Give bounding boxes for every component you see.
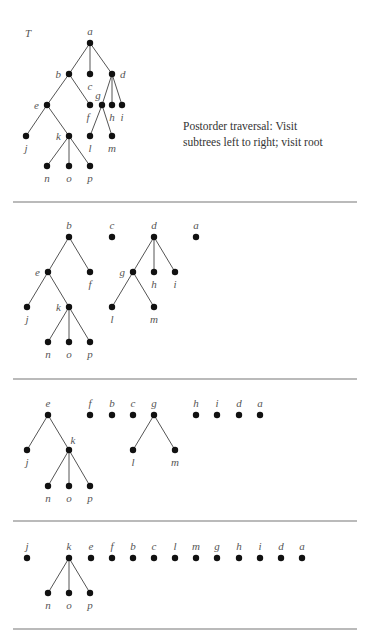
node-label-e: e bbox=[34, 99, 39, 111]
node-label-j: j bbox=[22, 142, 27, 154]
node-label-m: m bbox=[108, 142, 116, 154]
node-label-h: h bbox=[109, 111, 115, 123]
node-label-e: e bbox=[89, 540, 94, 552]
node-label-a: a bbox=[299, 540, 305, 552]
node-d bbox=[109, 71, 115, 77]
node-d bbox=[236, 412, 242, 418]
node-label-g: g bbox=[95, 89, 101, 101]
node-label-n: n bbox=[45, 599, 51, 611]
node-m bbox=[151, 304, 157, 310]
edge-d-i bbox=[154, 237, 175, 272]
node-n bbox=[45, 483, 51, 489]
node-d bbox=[151, 234, 157, 240]
node-i bbox=[214, 412, 220, 418]
edge-g-m bbox=[154, 415, 175, 450]
node-g bbox=[99, 102, 105, 108]
edge-a-d bbox=[90, 43, 112, 74]
node-label-k: k bbox=[71, 434, 77, 446]
node-label-h: h bbox=[151, 278, 157, 290]
node-f bbox=[87, 102, 93, 108]
node-g bbox=[151, 412, 157, 418]
node-label-m: m bbox=[150, 313, 158, 325]
edge-k-p bbox=[69, 450, 90, 486]
node-label-c: c bbox=[131, 397, 136, 409]
node-label-f: f bbox=[86, 111, 91, 123]
node-f bbox=[87, 269, 93, 275]
node-j bbox=[24, 555, 30, 561]
node-a bbox=[257, 412, 263, 418]
node-label-n: n bbox=[45, 348, 51, 360]
tree-label: T bbox=[25, 27, 32, 39]
edge-d-g bbox=[102, 74, 112, 105]
node-label-h: h bbox=[236, 540, 242, 552]
node-label-j: j bbox=[23, 456, 28, 468]
node-o bbox=[66, 163, 72, 169]
node-label-a: a bbox=[193, 219, 199, 231]
node-label-o: o bbox=[66, 348, 72, 360]
node-label-d: d bbox=[120, 68, 126, 80]
node-label-e: e bbox=[46, 397, 51, 409]
edge-e-k bbox=[48, 415, 69, 450]
node-p bbox=[87, 590, 93, 596]
node-h bbox=[151, 269, 157, 275]
node-label-n: n bbox=[44, 172, 50, 184]
edge-g-l bbox=[90, 105, 102, 136]
node-label-i: i bbox=[120, 111, 123, 123]
node-label-f: f bbox=[88, 397, 93, 409]
node-label-d: d bbox=[278, 540, 284, 552]
node-label-o: o bbox=[66, 492, 72, 504]
node-label-j: j bbox=[23, 540, 28, 552]
node-i bbox=[172, 269, 178, 275]
node-label-g: g bbox=[151, 397, 157, 409]
node-k bbox=[66, 133, 72, 139]
edge-k-p bbox=[69, 307, 90, 342]
node-label-i: i bbox=[215, 397, 218, 409]
node-label-b: b bbox=[109, 397, 115, 409]
node-c bbox=[130, 412, 136, 418]
node-b bbox=[130, 555, 136, 561]
node-label-o: o bbox=[66, 172, 72, 184]
node-h bbox=[193, 412, 199, 418]
node-g bbox=[130, 269, 136, 275]
node-label-p: p bbox=[86, 172, 93, 184]
caption: Postorder traversal: Visit subtrees left… bbox=[183, 118, 353, 150]
node-label-m: m bbox=[171, 456, 179, 468]
node-h bbox=[236, 555, 242, 561]
node-label-a: a bbox=[257, 397, 263, 409]
edge-b-e bbox=[48, 237, 69, 272]
node-m bbox=[109, 133, 115, 139]
postorder-traversal-diagram: T abcdefghijklmnopbcdaefghijklmnopefbcgh… bbox=[0, 0, 365, 639]
node-c bbox=[109, 234, 115, 240]
edge-e-j bbox=[27, 415, 48, 450]
node-label-g: g bbox=[120, 266, 126, 278]
node-label-p: p bbox=[86, 599, 93, 611]
node-b bbox=[66, 234, 72, 240]
node-f bbox=[87, 412, 93, 418]
node-label-c: c bbox=[110, 219, 115, 231]
edge-b-f bbox=[69, 237, 90, 272]
node-label-j: j bbox=[23, 313, 28, 325]
node-p bbox=[87, 339, 93, 345]
node-a bbox=[193, 234, 199, 240]
node-k bbox=[66, 304, 72, 310]
node-a bbox=[87, 40, 93, 46]
caption-line-2: subtrees left to right; visit root bbox=[183, 134, 353, 150]
node-label-b: b bbox=[130, 540, 136, 552]
node-label-l: l bbox=[88, 142, 91, 154]
node-label-k: k bbox=[56, 301, 62, 313]
node-label-b: b bbox=[56, 68, 62, 80]
node-e bbox=[45, 412, 51, 418]
node-m bbox=[193, 555, 199, 561]
node-c bbox=[87, 71, 93, 77]
node-b bbox=[109, 412, 115, 418]
node-n bbox=[45, 590, 51, 596]
node-i bbox=[119, 102, 125, 108]
node-label-k: k bbox=[56, 130, 62, 142]
node-o bbox=[66, 590, 72, 596]
node-b bbox=[66, 71, 72, 77]
node-l bbox=[87, 133, 93, 139]
node-o bbox=[66, 339, 72, 345]
node-n bbox=[45, 339, 51, 345]
node-l bbox=[109, 304, 115, 310]
node-label-f: f bbox=[110, 540, 115, 552]
